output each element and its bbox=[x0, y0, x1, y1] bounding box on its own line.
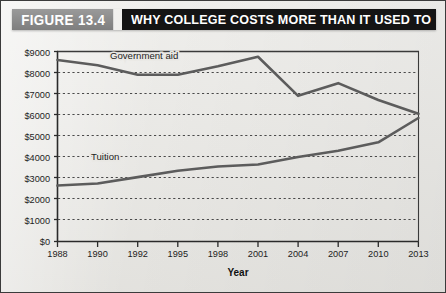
y-tick-label: $1000 bbox=[24, 216, 50, 226]
y-tick-label: $9000 bbox=[24, 48, 50, 58]
x-axis-tick-labels: 1988 1990 1992 1995 1998 2001 2004 2007 … bbox=[47, 249, 428, 259]
series-label-tuition: Tuition bbox=[91, 151, 119, 162]
chart-plot-area: $9000 $8000 $7000 $6000 $5000 $4000 $300… bbox=[1, 35, 446, 293]
x-axis-title: Year bbox=[227, 267, 248, 278]
x-tick-label: 2010 bbox=[368, 249, 388, 259]
figure-container: FIGURE 13.4 WHY COLLEGE COSTS MORE THAN … bbox=[0, 0, 446, 293]
x-tick-label: 2013 bbox=[408, 249, 428, 259]
y-tick-label: $4000 bbox=[24, 153, 50, 163]
y-tick-label: $6000 bbox=[24, 111, 50, 121]
x-axis-ticks bbox=[58, 242, 419, 247]
y-axis-tick-labels: $9000 $8000 $7000 $6000 $5000 $4000 $300… bbox=[24, 48, 50, 247]
figure-number-label: FIGURE 13.4 bbox=[12, 9, 114, 30]
x-tick-label: 1988 bbox=[47, 249, 67, 259]
y-tick-label: $2000 bbox=[24, 195, 50, 205]
x-tick-label: 1990 bbox=[87, 249, 107, 259]
x-tick-label: 1995 bbox=[168, 249, 188, 259]
line-chart-svg: $9000 $8000 $7000 $6000 $5000 $4000 $300… bbox=[1, 35, 446, 293]
x-tick-label: 2001 bbox=[248, 249, 268, 259]
y-tick-label: $7000 bbox=[24, 90, 50, 100]
series-line-government-aid bbox=[58, 57, 419, 114]
series-label-government-aid: Government aid bbox=[110, 50, 178, 61]
y-tick-label: $8000 bbox=[24, 69, 50, 79]
x-tick-label: 1992 bbox=[127, 249, 147, 259]
axis-lines bbox=[57, 51, 419, 242]
x-tick-label: 2007 bbox=[328, 249, 348, 259]
y-tick-label: $3000 bbox=[24, 174, 50, 184]
figure-title-text: WHY COLLEGE COSTS MORE THAN IT USED TO bbox=[131, 12, 431, 27]
figure-header-banner: FIGURE 13.4 WHY COLLEGE COSTS MORE THAN … bbox=[12, 9, 436, 30]
x-tick-label: 2004 bbox=[288, 249, 308, 259]
y-tick-label: $5000 bbox=[24, 132, 50, 142]
x-tick-label: 1998 bbox=[208, 249, 228, 259]
y-tick-label: $0 bbox=[40, 237, 50, 247]
figure-title: WHY COLLEGE COSTS MORE THAN IT USED TO bbox=[122, 9, 436, 30]
